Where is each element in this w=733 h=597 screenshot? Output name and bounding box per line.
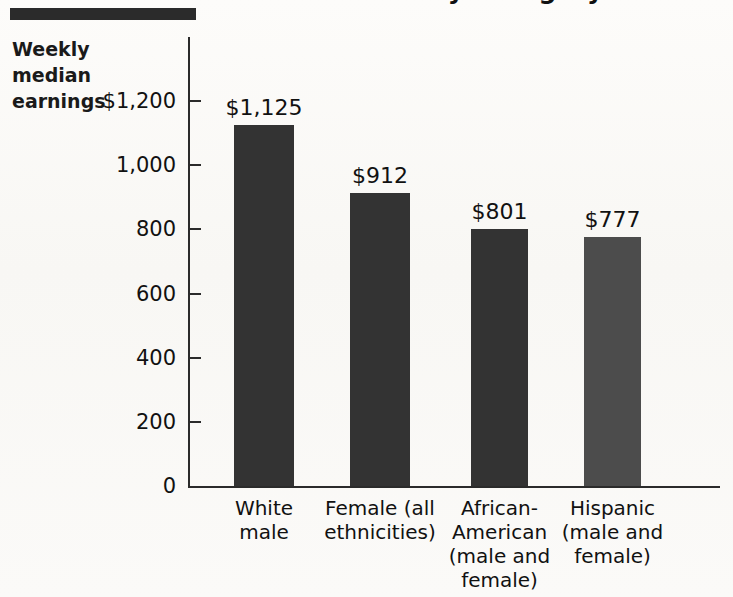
bar-3[interactable]: [471, 229, 528, 486]
category-label-line: Female (all: [312, 496, 448, 520]
category-label-line: female): [433, 568, 566, 592]
y-tick-400: [188, 357, 201, 359]
title-rule-bar: [10, 8, 196, 20]
bar-2[interactable]: [350, 193, 410, 486]
y-tick-600: [188, 293, 201, 295]
bar-value-label-2: $912: [325, 165, 435, 187]
y-axis-title-line-1: Weekly: [12, 36, 164, 62]
bar-4[interactable]: [584, 237, 641, 486]
y-tick-label-1000: 1,000: [26, 155, 176, 176]
y-tick-label-0: 0: [26, 476, 176, 497]
y-tick-label-1200: $1,200: [26, 91, 176, 112]
y-tick-label-600: 600: [26, 284, 176, 305]
category-label-line: (male and: [546, 520, 679, 544]
y-tick-1200: [188, 100, 201, 102]
y-tick-label-200: 200: [26, 412, 176, 433]
y-axis-title-line-2: median: [12, 62, 164, 88]
chart-title-text: by Category: [300, 0, 733, 4]
y-tick-1000: [188, 164, 201, 166]
category-label-4: Hispanic(male andfemale): [546, 496, 679, 568]
y-tick-800: [188, 228, 201, 230]
bar-value-label-4: $777: [559, 209, 666, 231]
category-label-2: Female (allethnicities): [312, 496, 448, 544]
bar-chart-figure: by Category Weekly median earnings 02004…: [0, 0, 733, 597]
y-tick-200: [188, 421, 201, 423]
category-label-line: ethnicities): [312, 520, 448, 544]
category-label-line: female): [546, 544, 679, 568]
chart-title-cropped: by Category: [300, 0, 733, 4]
bar-value-label-1: $1,125: [209, 97, 319, 119]
bar-1[interactable]: [234, 125, 294, 486]
y-tick-label-800: 800: [26, 219, 176, 240]
plot-area: 02004006008001,000$1,200 $1,125$912$801$…: [188, 37, 720, 488]
bar-value-label-3: $801: [446, 201, 553, 223]
category-label-line: Hispanic: [546, 496, 679, 520]
x-axis-line: [188, 486, 720, 488]
y-tick-label-400: 400: [26, 348, 176, 369]
